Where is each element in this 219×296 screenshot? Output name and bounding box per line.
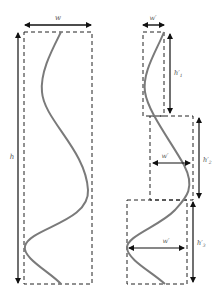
diagram: w h w′ h′1 w′ h′2 w′ h′3 xyxy=(0,0,219,296)
left-panel: w h xyxy=(10,14,92,284)
left-bounding-box xyxy=(24,32,92,284)
segment-2-box xyxy=(150,116,193,200)
segment-3-height-label: h′3 xyxy=(197,239,206,248)
segment-3-box xyxy=(127,200,187,284)
segment-1-height-label: h′1 xyxy=(174,69,183,78)
segment-1-width-label: w′ xyxy=(149,14,157,22)
right-waveform-curve xyxy=(127,32,189,284)
segment-2-width-label: w′ xyxy=(161,152,169,160)
height-label-h: h xyxy=(10,153,15,161)
width-label-w: w xyxy=(55,14,61,22)
segment-3-width-label: w′ xyxy=(162,237,170,245)
left-waveform-curve xyxy=(25,32,88,284)
segment-2-height-label: h′2 xyxy=(203,156,212,165)
right-panel: w′ h′1 w′ h′2 w′ h′3 xyxy=(127,14,212,284)
